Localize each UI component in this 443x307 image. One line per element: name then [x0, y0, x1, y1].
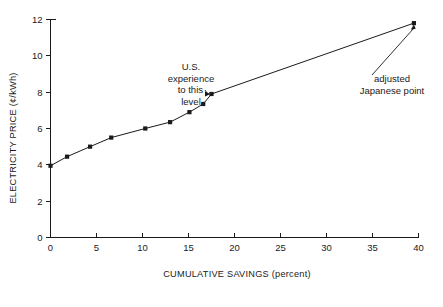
data-point-marker — [88, 145, 92, 149]
data-point-marker — [109, 135, 113, 139]
y-tick-label: 6 — [37, 123, 42, 134]
chart-plot-area: 024681012 0510152025303540 U.S.experienc… — [0, 0, 443, 307]
data-point-marker — [143, 126, 147, 130]
y-tick-label: 12 — [32, 14, 43, 25]
annotation-line: experience — [168, 73, 214, 84]
annotation-line: Japanese point — [360, 85, 425, 96]
x-tick-label: 10 — [137, 242, 148, 253]
annotation-line: level — [181, 96, 201, 107]
data-point-marker — [187, 110, 191, 114]
y-tick-label: 0 — [37, 232, 42, 243]
y-tick-label: 8 — [37, 87, 42, 98]
x-axis-title: CUMULATIVE SAVINGS (percent) — [163, 269, 311, 279]
x-tick-label: 30 — [321, 242, 332, 253]
x-tick-label: 5 — [94, 242, 99, 253]
x-axis-ticks: 0510152025303540 — [48, 233, 424, 253]
y-tick-label: 10 — [32, 50, 43, 61]
y-tick-label: 4 — [37, 159, 42, 170]
annotation-line: adjusted — [374, 73, 410, 84]
data-point-marker — [48, 164, 52, 168]
x-tick-label: 0 — [48, 242, 53, 253]
y-tick-label: 2 — [37, 196, 42, 207]
data-point-marker — [201, 102, 205, 106]
annotation-arrow-head — [411, 25, 416, 30]
x-tick-label: 25 — [275, 242, 286, 253]
annotation-line: to this — [178, 84, 204, 95]
data-point-marker — [168, 120, 172, 124]
x-tick-label: 20 — [229, 242, 240, 253]
y-axis-ticks: 024681012 — [32, 14, 56, 243]
x-tick-label: 35 — [367, 242, 378, 253]
chart-annotations: U.S.experienceto thisleveladjustedJapane… — [168, 25, 425, 107]
x-tick-label: 15 — [183, 242, 194, 253]
y-axis-title: ELECTRICITY PRICE (¢/kWh) — [8, 72, 18, 203]
chart-container: 024681012 0510152025303540 U.S.experienc… — [0, 0, 443, 307]
annotation-line: U.S. — [182, 61, 200, 72]
data-point-marker — [65, 155, 69, 159]
x-tick-label: 40 — [413, 242, 424, 253]
